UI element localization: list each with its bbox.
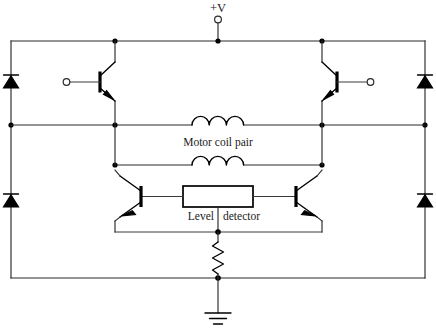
transistor-collector-lead bbox=[120, 176, 141, 191]
level-detector-label-right: detector bbox=[223, 210, 260, 222]
transistor-collector-lead bbox=[100, 62, 115, 76]
transistor-emitter-join bbox=[317, 217, 322, 221]
resistor-zigzag bbox=[213, 242, 224, 274]
motor-coil-label: Motor coil pair bbox=[183, 136, 253, 149]
sense-resistor[interactable] bbox=[213, 232, 224, 278]
upper-coil-rail bbox=[11, 122, 425, 127]
transistor-bottom-right[interactable] bbox=[296, 170, 322, 232]
ground bbox=[205, 278, 231, 324]
diode-bottom-right[interactable] bbox=[418, 194, 433, 207]
supply-label: +V bbox=[210, 1, 226, 15]
transistor-top-left[interactable] bbox=[63, 62, 115, 101]
circuit-diagram-canvas: Motor coil pair bbox=[0, 0, 436, 335]
inductor-upper bbox=[192, 116, 244, 125]
lower-coil-rail bbox=[112, 162, 324, 167]
diode-triangle bbox=[4, 76, 19, 88]
transistor-emitter-join bbox=[115, 217, 120, 221]
input-terminal-circle-right[interactable] bbox=[367, 79, 374, 86]
transistor-bottom-left[interactable] bbox=[115, 170, 141, 232]
diode-triangle bbox=[418, 195, 433, 207]
transistor-collector-lead bbox=[322, 62, 337, 76]
transistor-collector-join bbox=[317, 170, 322, 176]
supply-branch bbox=[215, 16, 222, 41]
inductor-coil-icon bbox=[192, 116, 244, 125]
level-detector-box[interactable] bbox=[183, 186, 253, 207]
diode-triangle bbox=[418, 76, 433, 88]
top-rail bbox=[11, 38, 425, 43]
circuit-schematic: Motor coil pair bbox=[0, 0, 436, 335]
transistor-top-right[interactable] bbox=[322, 62, 374, 101]
transistor-collector-lead bbox=[296, 176, 317, 191]
transistor-collector-join bbox=[115, 170, 120, 176]
supply-terminal-circle[interactable] bbox=[215, 16, 222, 23]
diode-top-left[interactable] bbox=[4, 75, 19, 88]
inductor-coil-icon bbox=[192, 156, 244, 165]
transistor-emitter-arrow bbox=[104, 91, 114, 100]
inductor-lower bbox=[192, 156, 244, 165]
diode-top-right[interactable] bbox=[418, 75, 433, 88]
transistor-emitter-arrow bbox=[323, 91, 333, 100]
level-detector-label-left: Level bbox=[188, 210, 214, 222]
level-detector[interactable] bbox=[141, 186, 296, 232]
input-terminal-circle-left[interactable] bbox=[63, 79, 70, 86]
diode-triangle bbox=[4, 195, 19, 207]
diode-bottom-left[interactable] bbox=[4, 194, 19, 207]
junction-dot bbox=[215, 38, 220, 43]
